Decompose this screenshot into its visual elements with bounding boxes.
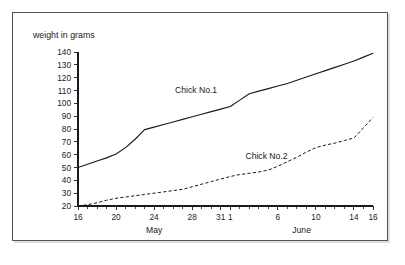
x-tick-label: 16 bbox=[73, 212, 83, 222]
y-tick-label: 90 bbox=[62, 111, 72, 121]
y-tick-label: 60 bbox=[62, 150, 72, 160]
series-label-2: Chick No.2 bbox=[245, 151, 287, 161]
y-tick-label: 20 bbox=[62, 201, 72, 211]
y-tick-label: 70 bbox=[62, 137, 72, 147]
x-tick-label: 14 bbox=[349, 212, 359, 222]
y-tick-label: 40 bbox=[62, 175, 72, 185]
y-tick-label: 30 bbox=[62, 188, 72, 198]
x-axis-ticks: 162024283116101416 bbox=[73, 206, 378, 222]
y-tick-label: 110 bbox=[58, 86, 72, 96]
y-axis-ticks: 2030405060708090100110120130140 bbox=[57, 47, 78, 211]
x-axis-month-label: June bbox=[292, 225, 311, 235]
x-tick-label: 10 bbox=[311, 212, 321, 222]
x-axis-month-labels: MayJune bbox=[146, 225, 311, 235]
y-tick-label: 50 bbox=[62, 163, 72, 173]
series-annotations: Chick No.1Chick No.2 bbox=[175, 85, 288, 160]
x-tick-label: 24 bbox=[150, 212, 160, 222]
line-chart: weight in grams 203040506070809010011012… bbox=[13, 13, 387, 240]
x-tick-label: 31 bbox=[216, 212, 226, 222]
y-tick-label: 120 bbox=[57, 73, 71, 83]
data-series-group bbox=[78, 53, 373, 206]
series-line-1 bbox=[78, 53, 373, 167]
y-tick-label: 80 bbox=[62, 124, 72, 134]
series-line-2 bbox=[78, 117, 373, 206]
x-tick-label: 20 bbox=[111, 212, 121, 222]
series-label-1: Chick No.1 bbox=[175, 85, 217, 95]
y-axis-title: weight in grams bbox=[32, 30, 95, 40]
y-tick-label: 100 bbox=[57, 98, 71, 108]
y-tick-label: 130 bbox=[57, 60, 71, 70]
chart-frame: weight in grams 203040506070809010011012… bbox=[12, 12, 388, 241]
x-tick-label: 1 bbox=[228, 212, 233, 222]
x-axis-month-label: May bbox=[146, 225, 163, 235]
y-tick-label: 140 bbox=[57, 47, 71, 57]
x-tick-label: 16 bbox=[368, 212, 378, 222]
x-tick-label: 6 bbox=[276, 212, 281, 222]
x-tick-label: 28 bbox=[188, 212, 198, 222]
